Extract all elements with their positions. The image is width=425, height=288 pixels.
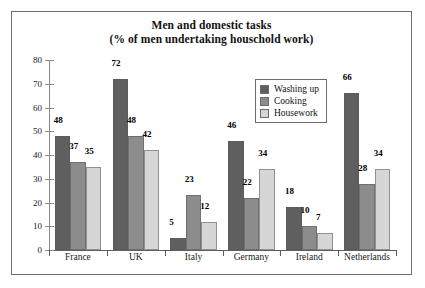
bar[interactable] <box>359 184 375 251</box>
bar-value-label: 22 <box>243 177 252 187</box>
bar[interactable] <box>186 195 202 250</box>
bar-group: 662834 <box>344 60 391 250</box>
legend-label: Housework <box>274 108 318 118</box>
bar-value-label: 34 <box>258 148 267 158</box>
category-label: UK <box>107 252 165 262</box>
bar-value-label: 28 <box>358 163 367 173</box>
bar-value-label: 46 <box>227 120 236 130</box>
bar-value-label: 23 <box>185 174 194 184</box>
bar[interactable] <box>228 141 244 250</box>
y-axis-tick-label: 30 <box>33 174 42 184</box>
chart-title-block: Men and domestic tasks (% of men underta… <box>12 18 411 46</box>
bar[interactable] <box>317 233 333 250</box>
bar[interactable] <box>86 167 102 250</box>
chart-legend: Washing upCookingHousework <box>255 79 327 123</box>
bar-value-label: 72 <box>112 58 121 68</box>
y-tick-mark <box>45 203 54 204</box>
bar-value-label: 37 <box>69 141 78 151</box>
category-label: Italy <box>165 252 223 262</box>
y-axis-tick-label: 60 <box>33 103 42 113</box>
legend-item[interactable]: Cooking <box>260 95 319 107</box>
legend-label: Washing up <box>274 84 319 94</box>
bar[interactable] <box>70 162 86 250</box>
bar-value-label: 48 <box>54 115 63 125</box>
y-tick-mark <box>45 60 54 61</box>
y-axis-tick-label: 70 <box>33 79 42 89</box>
plot-area: 01020304050607080 4837357248425231246223… <box>49 60 396 250</box>
y-axis-tick-label: 50 <box>33 126 42 136</box>
bar-value-label: 5 <box>169 217 174 227</box>
chart-screenshot: Men and domestic tasks (% of men underta… <box>0 0 425 288</box>
bar[interactable] <box>302 226 318 250</box>
y-tick-mark <box>45 155 54 156</box>
bar[interactable] <box>286 207 302 250</box>
legend-swatch-icon <box>260 109 269 118</box>
bar[interactable] <box>344 93 360 250</box>
bar-value-label: 35 <box>85 146 94 156</box>
chart-subtitle: (% of men undertaking houschold work) <box>12 32 411 46</box>
x-tick-mark <box>396 250 397 256</box>
category-label: Germany <box>223 252 281 262</box>
legend-swatch-icon <box>260 85 269 94</box>
bar-value-label: 66 <box>343 72 352 82</box>
category-label: France <box>49 252 107 262</box>
bar-group: 483735 <box>55 60 102 250</box>
y-axis-tick-label: 10 <box>33 221 42 231</box>
bar-value-label: 42 <box>143 129 152 139</box>
y-tick-mark <box>45 108 54 109</box>
bar[interactable] <box>170 238 186 250</box>
bar-value-label: 18 <box>285 186 294 196</box>
legend-swatch-icon <box>260 97 269 106</box>
page-title: Men and domestic tasks <box>12 18 411 32</box>
bar[interactable] <box>375 169 391 250</box>
bar[interactable] <box>113 79 129 250</box>
y-tick-mark <box>45 131 54 132</box>
bar-value-label: 10 <box>301 205 310 215</box>
bar-value-label: 12 <box>200 201 209 211</box>
y-axis-tick-label: 80 <box>33 55 42 65</box>
category-label: Ireland <box>280 252 338 262</box>
y-tick-mark <box>45 179 54 180</box>
bar[interactable] <box>128 136 144 250</box>
legend-item[interactable]: Washing up <box>260 83 319 95</box>
bar-group: 52312 <box>170 60 217 250</box>
category-axis-labels: FranceUKItalyGermanyIrelandNetherlands <box>49 252 396 268</box>
legend-item[interactable]: Housework <box>260 107 319 119</box>
bar-value-label: 34 <box>374 148 383 158</box>
y-axis-tick-label: 0 <box>38 245 43 255</box>
chart-frame: Men and domestic tasks (% of men underta… <box>11 11 412 275</box>
bar[interactable] <box>259 169 275 250</box>
bar[interactable] <box>55 136 71 250</box>
legend-label: Cooking <box>274 96 307 106</box>
bar[interactable] <box>244 198 260 250</box>
bar-value-label: 48 <box>127 115 136 125</box>
bar-value-label: 7 <box>316 212 321 222</box>
y-tick-mark <box>45 226 54 227</box>
y-tick-mark <box>45 84 54 85</box>
bar[interactable] <box>144 150 160 250</box>
y-axis-tick-label: 40 <box>33 150 42 160</box>
bar-group: 724842 <box>113 60 160 250</box>
category-label: Netherlands <box>338 252 396 262</box>
y-axis-tick-label: 20 <box>33 198 42 208</box>
bar[interactable] <box>201 222 217 251</box>
